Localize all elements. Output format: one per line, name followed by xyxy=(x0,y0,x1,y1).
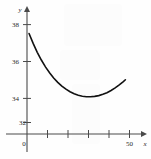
x-axis-label: x xyxy=(142,140,147,148)
x-axis-arrow xyxy=(141,131,147,137)
plot-area: 38 36 34 32 50 0 y x xyxy=(0,0,151,159)
y-tick-label-36: 36 xyxy=(12,58,20,66)
y-tick-label-34: 34 xyxy=(12,95,20,103)
x-tick-label-50: 50 xyxy=(126,140,134,148)
y-tick-label-38: 38 xyxy=(12,21,20,29)
y-tick-label-32: 32 xyxy=(19,119,27,127)
y-axis-label: y xyxy=(17,6,22,14)
chart-figure: 38 36 34 32 50 0 y x xyxy=(0,0,151,159)
y-axis-arrow xyxy=(24,6,30,12)
origin-label: 0 xyxy=(22,140,26,148)
watermark xyxy=(60,4,122,144)
